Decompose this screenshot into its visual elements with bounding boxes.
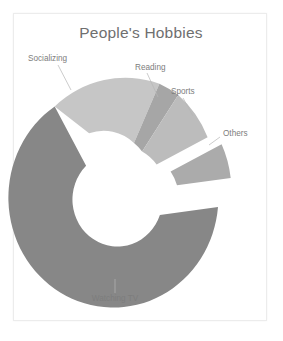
slice-label-watching-tv: Watching TV — [92, 294, 139, 303]
donut-slices — [8, 78, 230, 308]
donut-chart: Socializing Reading Sports Others Watchi… — [0, 0, 270, 328]
slice-label-sports: Sports — [171, 87, 195, 96]
slice-label-socializing: Socializing — [28, 54, 68, 63]
slice-label-reading: Reading — [135, 63, 166, 72]
leader-line-others — [209, 137, 220, 145]
slice-label-others: Others — [223, 129, 248, 138]
leader-line-socializing — [58, 65, 71, 90]
